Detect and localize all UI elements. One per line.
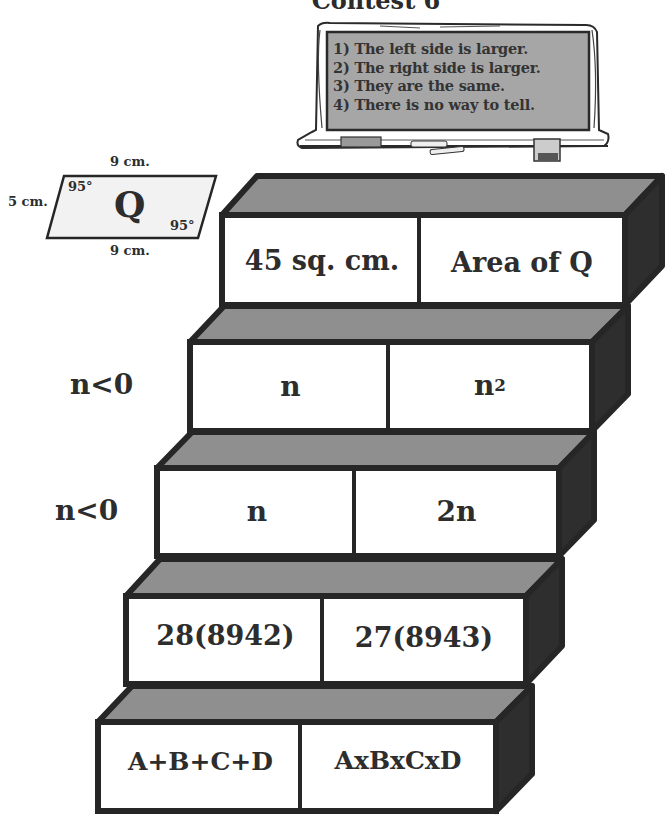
- q-bottom-side-label: 9 cm.: [110, 243, 150, 258]
- box-2-right-base: n: [474, 369, 494, 402]
- q-top-side-label: 9 cm.: [110, 154, 150, 169]
- q-shape-name: Q: [114, 184, 145, 224]
- box-5-left-value: A+B+C+D: [101, 725, 300, 797]
- answer-option-3: 3) They are the same.: [333, 77, 541, 96]
- box-5-right-value: AxBxCxD: [302, 725, 494, 795]
- q-left-side-label: 5 cm.: [8, 194, 48, 209]
- box-4-left-value: 28(8942): [129, 599, 322, 671]
- answer-option-4: 4) There is no way to tell.: [333, 96, 541, 115]
- answer-option-2: 2) The right side is larger.: [333, 59, 541, 78]
- box-3-condition: n<0: [55, 494, 118, 527]
- box-3-left-value: n: [160, 471, 354, 551]
- box-1-right-value: Area of Q: [421, 218, 623, 306]
- answer-option-1: 1) The left side is larger.: [333, 40, 541, 59]
- box-2-left-value: n: [193, 345, 388, 428]
- answer-options: 1) The left side is larger. 2) The right…: [333, 40, 541, 114]
- box-2-right-value: n2: [390, 345, 590, 425]
- box-2-condition: n<0: [70, 368, 133, 401]
- q-angle-top-left: 95°: [68, 179, 93, 194]
- box-1-left-value: 45 sq. cm.: [225, 218, 419, 302]
- box-4-right-value: 27(8943): [324, 601, 524, 673]
- q-angle-bottom-right: 95°: [170, 218, 195, 233]
- box-3-right-value: 2n: [356, 471, 557, 551]
